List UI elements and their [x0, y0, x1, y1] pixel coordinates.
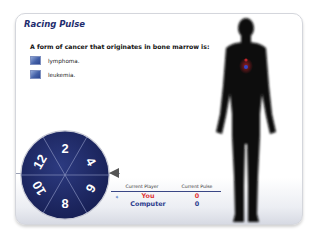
arrow-right-icon: ➧: [111, 193, 123, 200]
game-title: Racing Pulse: [24, 19, 85, 29]
scoreboard-header: Current Player Current Pulse: [111, 184, 221, 192]
answer-option-leukemia[interactable]: leukemia.: [30, 70, 75, 79]
human-body-silhouette: [212, 16, 278, 225]
spinner-wheel[interactable]: 2 4 6 8 10 12: [19, 129, 111, 221]
wheel-pointer-icon: [109, 168, 119, 178]
answer-label: leukemia.: [48, 72, 75, 78]
player-name: You: [123, 192, 173, 200]
answer-checkbox[interactable]: [30, 56, 41, 65]
question-text: A form of cancer that originates in bone…: [30, 43, 209, 50]
player-name: Computer: [123, 200, 173, 208]
answer-label: lymphoma.: [48, 58, 80, 64]
wheel-segment-8: 8: [61, 196, 68, 211]
player-row-computer: Computer 0: [111, 200, 221, 208]
col-current-player: Current Player: [111, 184, 173, 189]
player-row-you: ➧ You 0: [111, 192, 221, 200]
answer-checkbox[interactable]: [30, 70, 41, 79]
scoreboard: Current Player Current Pulse ➧ You 0 Com…: [111, 184, 221, 208]
wheel-segment-2: 2: [61, 141, 68, 156]
game-panel: Racing Pulse A form of cancer that origi…: [15, 13, 303, 225]
answer-option-lymphoma[interactable]: lymphoma.: [30, 56, 80, 65]
